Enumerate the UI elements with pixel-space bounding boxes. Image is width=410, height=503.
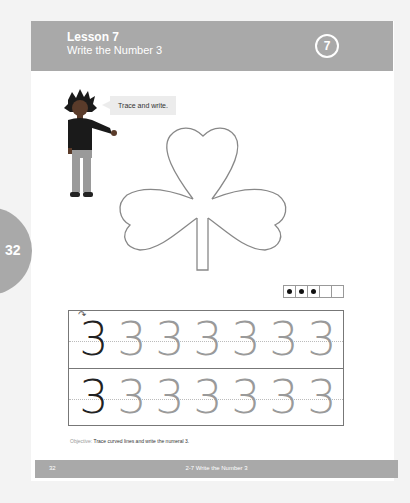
ten-frame — [283, 285, 344, 298]
tracing-row: ↷ 3 3 3 3 3 3 3 — [69, 311, 343, 368]
trace-digit[interactable]: 3 — [189, 371, 227, 423]
trace-digit[interactable]: 3 — [265, 371, 303, 423]
trace-digit[interactable]: 3 — [303, 371, 341, 423]
trace-digit[interactable]: 3 — [227, 313, 265, 365]
ten-frame-cell-filled — [308, 286, 320, 297]
lesson-header: Lesson 7 Write the Number 3 7 — [31, 21, 393, 71]
trace-digit[interactable]: 3 — [151, 313, 189, 365]
trace-digit[interactable]: 3 — [265, 313, 303, 365]
objective-note: Objective: Trace curved lines and write … — [70, 438, 189, 444]
trace-digit[interactable]: 3 — [189, 313, 227, 365]
page-number-tab: 32 — [0, 207, 32, 295]
model-digit: 3 — [75, 371, 113, 423]
tracing-row: 3 3 3 3 3 3 3 — [69, 368, 343, 426]
page-footer: 32 2-7 Write the Number 3 — [35, 460, 398, 478]
speech-bubble: Trace and write. — [110, 96, 176, 115]
lesson-title: Write the Number 3 — [67, 44, 162, 56]
speech-bubble-tail — [102, 101, 110, 109]
objective-text: Trace curved lines and write the numeral… — [94, 438, 190, 444]
lesson-number-badge: 7 — [315, 34, 339, 58]
trace-digit[interactable]: 3 — [113, 371, 151, 423]
ten-frame-cell-empty — [320, 286, 332, 297]
model-digit: 3 — [75, 313, 113, 365]
tracing-box: ↷ 3 3 3 3 3 3 3 3 3 3 3 3 3 3 — [68, 310, 344, 426]
trace-digit[interactable]: 3 — [227, 371, 265, 423]
footer-title: 2-7 Write the Number 3 — [35, 465, 398, 471]
trace-digit[interactable]: 3 — [113, 313, 151, 365]
ten-frame-cell-filled — [296, 286, 308, 297]
side-page-number: 32 — [5, 242, 21, 258]
shamrock-outline — [115, 120, 295, 280]
lesson-label: Lesson 7 — [67, 31, 119, 43]
ten-frame-cell-empty — [332, 286, 343, 297]
trace-digit[interactable]: 3 — [303, 313, 341, 365]
objective-label: Objective: — [70, 438, 92, 444]
ten-frame-cell-filled — [284, 286, 296, 297]
trace-digit[interactable]: 3 — [151, 371, 189, 423]
